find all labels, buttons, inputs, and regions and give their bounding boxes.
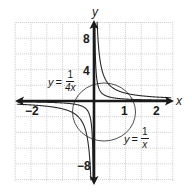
equation-var: y <box>124 133 130 145</box>
y-axis-label: y <box>92 6 98 18</box>
tick-label-x-neg2: −2 <box>25 105 39 117</box>
fraction-numerator: 1 <box>66 70 74 82</box>
tick-label-x-2: 2 <box>153 105 160 117</box>
tick-label-y-neg8: −8 <box>77 160 91 172</box>
equation-var: y <box>48 76 54 88</box>
curve-14x <box>95 24 171 100</box>
curve-1x <box>97 22 171 98</box>
tick-label-y-8: 8 <box>83 33 90 45</box>
fraction-denominator: 4x <box>65 82 76 93</box>
tick-label-y-4: 4 <box>83 65 90 77</box>
equation-label-reciprocal: y = 1 x <box>124 127 149 150</box>
equation-equals: = <box>56 76 62 88</box>
equation-label-quarter-reciprocal: y = 1 4x <box>48 70 76 93</box>
fraction-numerator: 1 <box>141 127 149 139</box>
function-graph <box>0 0 192 192</box>
tick-label-x-1: 1 <box>121 105 128 117</box>
equation-fraction: 1 4x <box>65 70 76 93</box>
equation-equals: = <box>132 133 138 145</box>
fraction-denominator: x <box>142 139 147 150</box>
x-axis-label: x <box>176 95 182 107</box>
equation-fraction: 1 x <box>141 127 149 150</box>
